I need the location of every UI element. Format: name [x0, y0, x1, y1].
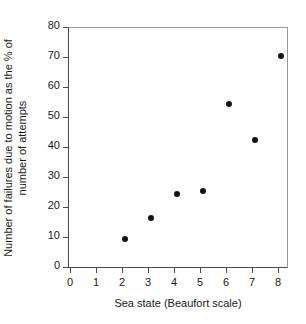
plot-area	[68, 27, 288, 268]
x-axis-tick-mark	[96, 268, 97, 273]
x-axis-tick-mark	[226, 268, 227, 273]
x-axis-tick-label: 1	[86, 277, 106, 288]
y-axis-tick-label: 70	[48, 50, 60, 61]
x-axis-tick-label: 4	[164, 277, 184, 288]
x-axis-tick-label: 7	[242, 277, 262, 288]
x-axis-tick-mark	[278, 268, 279, 273]
x-axis-tick-mark	[70, 268, 71, 273]
x-axis-tick-mark	[200, 268, 201, 273]
x-axis-tick-label: 5	[190, 277, 210, 288]
data-point	[174, 191, 180, 197]
x-axis-tick-mark	[122, 268, 123, 273]
x-axis-tick-label: 3	[138, 277, 158, 288]
y-axis-tick-label: 80	[48, 20, 60, 31]
y-axis-tick-label: 40	[48, 140, 60, 151]
data-point	[148, 215, 154, 221]
y-axis-tick-label: 30	[48, 170, 60, 181]
x-axis-title: Sea state (Beaufort scale)	[68, 297, 288, 310]
data-point	[122, 236, 128, 242]
data-point	[278, 53, 284, 59]
y-axis-tick-label: 60	[48, 80, 60, 91]
y-axis-tick-label: 20	[48, 200, 60, 211]
x-axis-tick-label: 6	[216, 277, 236, 288]
scatter-chart-figure: Number of failures due to motion as the …	[0, 0, 306, 324]
y-axis-tick-label: 50	[48, 110, 60, 121]
data-point	[252, 137, 258, 143]
data-point	[226, 101, 232, 107]
x-axis-tick-label: 2	[112, 277, 132, 288]
y-axis-tick-label: 10	[48, 230, 60, 241]
data-point	[200, 188, 206, 194]
x-axis-tick-mark	[148, 268, 149, 273]
x-axis-tick-mark	[252, 268, 253, 273]
x-axis-tick-label: 8	[268, 277, 288, 288]
x-axis-tick-mark	[174, 268, 175, 273]
x-axis-tick-label: 0	[60, 277, 80, 288]
